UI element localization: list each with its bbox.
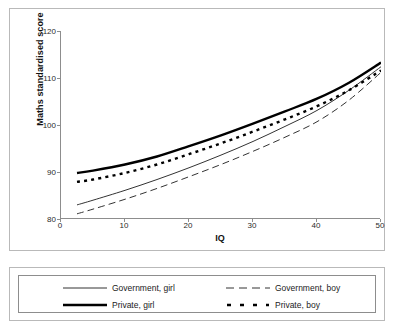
x-tick-mark-50 — [380, 219, 381, 222]
x-tick-label-30: 30 — [242, 221, 262, 230]
chart-frame: Maths standardised score 120 110 100 90 … — [9, 8, 385, 251]
x-tick-mark-30 — [252, 219, 253, 222]
legend-panel: Government, girl Private, girl Governmen… — [9, 267, 385, 321]
x-tick-mark-10 — [124, 219, 125, 222]
legend-item-government-boy: Government, boy — [224, 280, 340, 296]
x-tick-mark-0 — [60, 219, 61, 222]
x-tick-label-10: 10 — [114, 221, 134, 230]
x-tick-mark-40 — [316, 219, 317, 222]
legend-label-government-boy: Government, boy — [275, 283, 340, 293]
y-tick-label-100: 100 — [32, 121, 56, 130]
legend-key-thick-dotted-icon — [224, 299, 272, 311]
y-tick-label-90: 90 — [32, 168, 56, 177]
x-tick-label-40: 40 — [306, 221, 326, 230]
legend-box: Government, girl Private, girl Governmen… — [18, 275, 376, 313]
legend-item-private-boy: Private, boy — [224, 297, 320, 313]
legend-item-government-girl: Government, girl — [61, 280, 175, 296]
y-tick-label-110: 110 — [32, 74, 56, 83]
x-tick-label-0: 0 — [50, 221, 70, 230]
x-tick-label-20: 20 — [178, 221, 198, 230]
x-axis-title: IQ — [60, 233, 380, 243]
legend-key-thin-dashed-icon — [224, 282, 272, 294]
legend-label-government-girl: Government, girl — [112, 283, 175, 293]
legend-key-thin-solid-icon — [61, 282, 109, 294]
x-tick-label-50: 50 — [370, 221, 390, 230]
series-canvas — [61, 31, 381, 219]
series-line-private-girl — [77, 62, 381, 172]
y-tick-label-120: 120 — [32, 27, 56, 36]
chart-screenshot: Maths standardised score 120 110 100 90 … — [0, 0, 401, 330]
series-line-government-girl — [77, 67, 381, 205]
plot-area — [60, 31, 380, 219]
legend-key-thick-solid-icon — [61, 299, 109, 311]
x-tick-mark-20 — [188, 219, 189, 222]
legend-item-private-girl: Private, girl — [61, 297, 155, 313]
series-line-government-boy — [77, 72, 381, 213]
legend-label-private-girl: Private, girl — [112, 300, 155, 310]
legend-label-private-boy: Private, boy — [275, 300, 320, 310]
